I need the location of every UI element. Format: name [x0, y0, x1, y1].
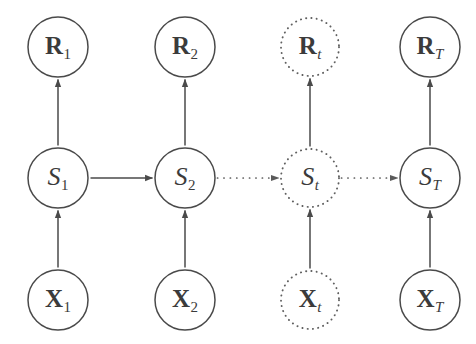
node-circle-XT[interactable] [400, 270, 460, 330]
node-circle-Rt[interactable] [281, 18, 339, 76]
graphical-model-diagram [0, 0, 476, 344]
edges-layer [58, 79, 430, 269]
node-circle-X1[interactable] [28, 270, 88, 330]
figure-canvas: R1R2RtRTS1S2StSTX1X2XtXT [0, 0, 476, 344]
node-circle-St[interactable] [281, 149, 339, 207]
node-circle-RT[interactable] [400, 17, 460, 77]
node-circle-S1[interactable] [28, 148, 88, 208]
node-circle-X2[interactable] [155, 270, 215, 330]
node-circle-R2[interactable] [155, 17, 215, 77]
node-circle-S2[interactable] [155, 148, 215, 208]
node-circle-R1[interactable] [28, 17, 88, 77]
nodes-layer [28, 17, 460, 330]
node-circle-Xt[interactable] [281, 271, 339, 329]
node-circle-ST[interactable] [400, 148, 460, 208]
